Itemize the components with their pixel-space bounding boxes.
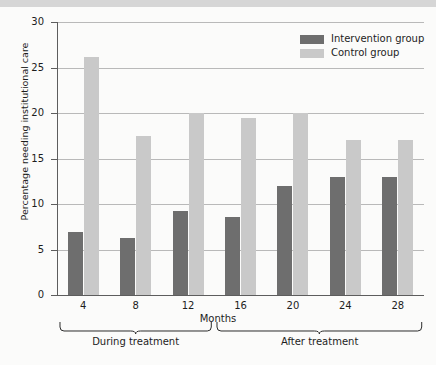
bar-intervention-month-16 [225,217,240,295]
legend-label-intervention: Intervention group [331,34,424,44]
x-tick-label-20: 20 [273,300,313,311]
bar-intervention-month-20 [277,186,292,295]
bar-control-month-4 [84,57,99,295]
x-tick-label-16: 16 [221,300,261,311]
legend-swatch-intervention-icon [300,35,324,44]
x-tick-label-4: 4 [63,300,103,311]
y-tick-label-5: 5 [4,245,44,255]
legend-item-intervention: Intervention group [300,32,424,46]
bar-control-month-24 [346,140,361,295]
bar-control-month-12 [189,113,204,295]
y-tick-label-0: 0 [4,290,44,300]
during-treatment-brace [59,322,212,336]
bar-control-month-8 [136,136,151,295]
page-top-band [0,0,436,7]
bar-intervention-month-24 [330,177,345,295]
legend-label-control: Control group [331,48,399,58]
during-treatment-brace-label: During treatment [59,336,212,347]
x-tick-label-28: 28 [378,300,418,311]
x-tick-label-12: 12 [168,300,208,311]
legend-item-control: Control group [300,46,424,60]
chart-legend: Intervention group Control group [300,32,424,60]
y-axis-title: Percentage needing institutional care [19,22,30,242]
bar-intervention-month-8 [120,238,135,295]
after-treatment-brace-label: After treatment [216,336,423,347]
bar-control-month-28 [398,140,413,295]
after-treatment-brace [216,322,423,336]
bar-control-month-20 [293,113,308,295]
x-tick-label-24: 24 [325,300,365,311]
legend-swatch-control-icon [300,49,324,58]
chart-bars [57,22,424,295]
chart-figure: 051015202530 Percentage needing institut… [0,0,436,365]
x-tick-label-8: 8 [116,300,156,311]
bar-intervention-month-28 [382,177,397,295]
x-axis-line [57,295,424,296]
bar-control-month-16 [241,118,256,295]
bar-intervention-month-12 [173,211,188,295]
y-tick-mark-0 [51,295,57,296]
bar-intervention-month-4 [68,232,83,295]
